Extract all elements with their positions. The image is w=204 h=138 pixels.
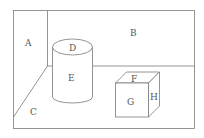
label-a: A — [24, 38, 32, 48]
diagram-canvas: A B C D E F G H — [0, 0, 204, 138]
label-g: G — [127, 97, 134, 107]
outer-frame — [14, 11, 195, 129]
label-h: H — [150, 92, 158, 102]
label-c: C — [30, 107, 37, 117]
room-scene-diagram: A B C D E F G H — [0, 0, 204, 138]
label-e: E — [68, 73, 75, 83]
label-f: F — [131, 74, 137, 84]
label-b: B — [130, 28, 137, 38]
label-d: D — [69, 43, 76, 53]
